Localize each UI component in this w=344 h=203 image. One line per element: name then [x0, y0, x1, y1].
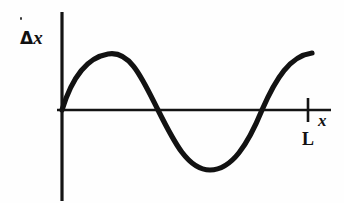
figure-container: Δx x L — [0, 0, 344, 203]
y-axis-label: Δx — [20, 28, 43, 47]
sine-curve — [62, 53, 312, 170]
delta-glyph: Δ — [20, 28, 33, 48]
x-tick-label-L: L — [302, 130, 314, 148]
sine-wave-plot — [0, 0, 344, 203]
scan-speck — [20, 17, 22, 20]
y-axis-variable-glyph: x — [33, 27, 43, 48]
x-axis-label: x — [318, 112, 327, 129]
